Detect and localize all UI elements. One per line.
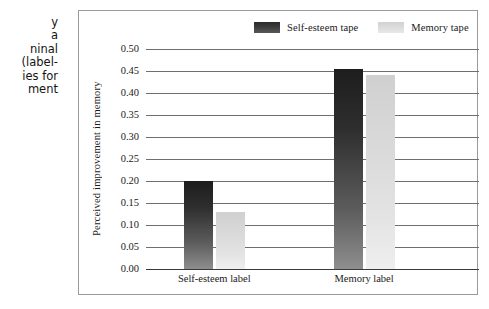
caption-line: ies for — [0, 70, 58, 83]
caption-line: ment — [0, 83, 58, 96]
caption-line: a — [0, 29, 58, 42]
gridline: 0.25 — [146, 159, 479, 160]
x-axis-line: 0.00 — [146, 269, 479, 270]
legend-swatch-light — [378, 22, 404, 33]
bar — [216, 212, 245, 269]
x-tick-label: Memory label — [335, 273, 394, 284]
y-tick-label: 0.35 — [121, 110, 139, 121]
y-tick-label: 0.40 — [121, 88, 139, 99]
caption-line: (label- — [0, 56, 58, 69]
legend-label: Memory tape — [411, 22, 468, 33]
gridline: 0.35 — [146, 115, 479, 116]
y-tick-label: 0.05 — [121, 242, 139, 253]
gridline: 0.45 — [146, 71, 479, 72]
chart-legend: Self-esteem tapeMemory tape — [254, 22, 469, 33]
y-tick-label: 0.45 — [121, 66, 139, 77]
legend-entry: Memory tape — [378, 22, 468, 33]
figure-box: Self-esteem tapeMemory tape Perceived im… — [78, 10, 478, 295]
caption-line: ninal — [0, 43, 58, 56]
x-tick-label: Self-esteem label — [178, 273, 251, 284]
y-tick-label: 0.30 — [121, 132, 139, 143]
legend-swatch-dark — [254, 22, 280, 33]
y-tick-label: 0.10 — [121, 220, 139, 231]
gridline: 0.40 — [146, 93, 479, 94]
y-tick-label: 0.00 — [121, 264, 139, 275]
gridline: 0.30 — [146, 137, 479, 138]
y-axis-title: Perceived improvement in memory — [91, 49, 102, 269]
gridline: 0.50 — [146, 49, 479, 50]
legend-entry: Self-esteem tape — [254, 22, 358, 33]
bar — [184, 181, 213, 269]
legend-label: Self-esteem tape — [287, 22, 358, 33]
y-tick-label: 0.15 — [121, 198, 139, 209]
bar — [334, 69, 363, 269]
figure-caption: yaninal(label-ies forment — [0, 16, 58, 96]
y-tick-label: 0.20 — [121, 176, 139, 187]
y-tick-label: 0.25 — [121, 154, 139, 165]
plot-area: 0.500.450.400.350.300.250.200.150.100.05… — [146, 49, 479, 269]
y-tick-label: 0.50 — [121, 44, 139, 55]
caption-line: y — [0, 16, 58, 29]
bar — [366, 75, 395, 269]
